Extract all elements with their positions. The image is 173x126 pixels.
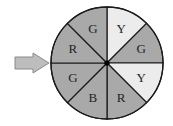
sector-label: B — [89, 90, 98, 105]
sector-label: R — [117, 90, 126, 105]
sector-label: G — [136, 41, 145, 56]
spinner-diagram: Y G Y R B G R G — [0, 0, 173, 126]
sector-label: G — [68, 70, 77, 85]
sector-label: R — [69, 41, 78, 56]
spinner-hub — [104, 60, 109, 65]
arrow-right-icon — [15, 53, 49, 73]
sector-label: G — [88, 21, 97, 36]
sector-label: Y — [136, 70, 146, 85]
sector-label: Y — [116, 21, 126, 36]
